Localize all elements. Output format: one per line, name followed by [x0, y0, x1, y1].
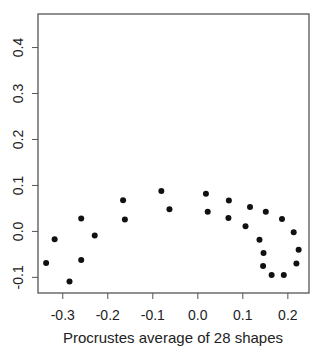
data-point	[279, 216, 285, 222]
data-point	[92, 233, 98, 239]
y-tick-label: 0.1	[10, 176, 26, 196]
data-point	[122, 216, 128, 222]
y-tick-label: 0.2	[10, 130, 26, 150]
y-tick-label: 0.3	[10, 84, 26, 104]
data-point	[166, 206, 172, 212]
data-point	[291, 229, 297, 235]
data-point	[281, 272, 287, 278]
scatter-chart: -0.3-0.2-0.10.00.10.2 -0.10.00.10.20.30.…	[0, 0, 319, 355]
x-tick-label: 0.2	[278, 307, 298, 323]
x-axis-title: Procrustes average of 28 shapes	[63, 329, 283, 346]
y-axis: -0.10.00.10.20.30.4	[10, 38, 38, 290]
data-point	[203, 191, 209, 197]
x-axis: -0.3-0.2-0.10.00.10.2	[51, 293, 298, 323]
data-point	[43, 260, 49, 266]
data-point	[205, 209, 211, 215]
data-point	[52, 236, 58, 242]
data-point	[247, 204, 253, 210]
data-point	[263, 209, 269, 215]
x-tick-label: -0.3	[51, 307, 75, 323]
y-tick-label: 0.0	[10, 221, 26, 241]
data-point	[225, 215, 231, 221]
data-point	[296, 247, 302, 253]
x-tick-label: 0.1	[233, 307, 253, 323]
y-tick-label: -0.1	[10, 265, 26, 289]
data-point	[293, 261, 299, 267]
data-point	[269, 272, 275, 278]
data-point	[78, 257, 84, 263]
x-tick-label: 0.0	[188, 307, 208, 323]
y-tick-label: 0.4	[10, 38, 26, 58]
data-point	[120, 197, 126, 203]
data-point	[78, 216, 84, 222]
data-point	[243, 223, 249, 229]
data-point	[158, 188, 164, 194]
data-points	[43, 188, 302, 285]
data-point	[226, 198, 232, 204]
x-tick-label: -0.2	[96, 307, 120, 323]
plot-frame	[38, 14, 309, 293]
data-point	[260, 263, 266, 269]
data-point	[256, 237, 262, 243]
data-point	[67, 279, 73, 285]
x-tick-label: -0.1	[141, 307, 165, 323]
data-point	[261, 250, 267, 256]
